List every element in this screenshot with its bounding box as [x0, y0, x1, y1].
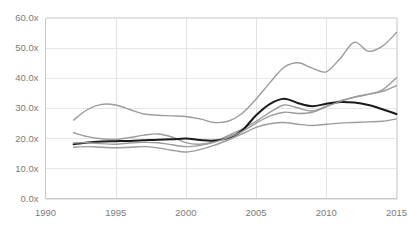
line-chart: 0.0x10.0x20.0x30.0x40.0x50.0x60.0x 19901… [0, 0, 408, 229]
y-tick-label: 10.0x [15, 163, 38, 174]
y-tick-label: 50.0x [15, 42, 38, 53]
grid-layer [46, 18, 398, 200]
y-tick-label: 40.0x [15, 72, 38, 83]
y-tick-label: 30.0x [15, 102, 38, 113]
x-tick-label: 1995 [105, 207, 126, 218]
y-tick-label: 20.0x [15, 133, 38, 144]
x-tick-label: 2010 [316, 207, 337, 218]
y-axis-tick-labels: 0.0x10.0x20.0x30.0x40.0x50.0x60.0x [15, 12, 38, 204]
x-tick-label: 2000 [175, 207, 196, 218]
x-axis-tick-labels: 199019952000200520102015 [35, 207, 407, 218]
series-layer [74, 33, 397, 152]
y-tick-label: 0.0x [21, 193, 39, 204]
series-line-top-percentile [74, 33, 397, 123]
x-tick-label: 2005 [246, 207, 267, 218]
y-tick-label: 60.0x [15, 12, 38, 23]
chart-canvas: 0.0x10.0x20.0x30.0x40.0x50.0x60.0x 19901… [0, 0, 408, 229]
x-tick-label: 2015 [386, 207, 407, 218]
x-tick-label: 1990 [35, 207, 56, 218]
